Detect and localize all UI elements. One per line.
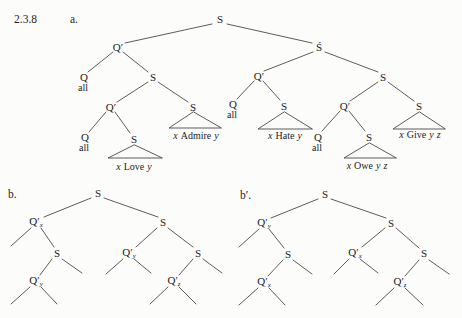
tree-b-s-right: S bbox=[160, 217, 166, 228]
leaf-var: y bbox=[147, 162, 151, 172]
tree-a-s-hate: S bbox=[281, 101, 287, 112]
tree-b-q-upper-left: Q′x bbox=[29, 216, 42, 229]
tree-b-q-lower-left: Q′y bbox=[29, 275, 42, 288]
tree-a-q-2: Q bbox=[81, 132, 89, 143]
tree-a-s-2: S bbox=[380, 72, 386, 83]
leaf-x-give-y-z: xGiveyz bbox=[399, 130, 440, 140]
leaf-var: x bbox=[268, 131, 272, 141]
leaf-x-hate-y: xHatey bbox=[268, 131, 302, 141]
tree-diagram-lines bbox=[0, 0, 462, 318]
tree-a-qprime-right: Q′ bbox=[254, 71, 264, 82]
leaf-var: y bbox=[214, 131, 218, 141]
tree-a-s-love: S bbox=[131, 134, 137, 145]
leaf-x-owe-y-z: xOweyz bbox=[347, 161, 388, 171]
tree-a-s-owe: S bbox=[366, 132, 372, 143]
tree-bp-q-lower-right: Q′z bbox=[393, 276, 406, 289]
tree-a-all-2: all bbox=[79, 143, 89, 153]
tree-a-qprime-inner: Q′ bbox=[106, 102, 116, 113]
tree-bp-s-right: S bbox=[388, 218, 394, 229]
item-label-b: b. bbox=[8, 188, 17, 200]
q-subscript: z bbox=[404, 281, 407, 289]
exercise-number: 2.3.8 bbox=[14, 13, 37, 25]
leaf-var: z bbox=[383, 161, 387, 171]
tree-a-edges bbox=[88, 24, 414, 133]
q-subscript: z bbox=[178, 280, 181, 288]
leaf-var: x bbox=[399, 130, 403, 140]
q-subscript: y bbox=[268, 222, 271, 230]
tree-b-root-s: S bbox=[95, 188, 101, 199]
tree-a-s-accented: Ś bbox=[316, 42, 322, 53]
tree-b-edges bbox=[11, 198, 222, 304]
leaf-predicate: Give bbox=[407, 130, 426, 140]
q-subscript: x bbox=[359, 252, 362, 260]
q-prime-symbol: Q′ bbox=[122, 246, 132, 258]
tree-a-s-give: S bbox=[416, 101, 422, 112]
tree-b-q-upper-right: Q′y bbox=[122, 247, 135, 260]
tree-a-q-4: Q bbox=[314, 132, 322, 143]
tree-a-all-3: all bbox=[227, 110, 237, 120]
tree-a-all-4: all bbox=[312, 143, 322, 153]
tree-a-qprime-inner-right: Q′ bbox=[340, 101, 350, 112]
item-label-b-prime: b′. bbox=[240, 189, 251, 201]
item-label-a: a. bbox=[70, 13, 78, 25]
leaf-var: x bbox=[116, 162, 120, 172]
leaf-var: y bbox=[297, 131, 301, 141]
leaf-predicate: Love bbox=[124, 162, 145, 172]
tree-b-prime-edges bbox=[239, 199, 449, 305]
tree-a-s-1: S bbox=[150, 72, 156, 83]
leaf-var: x bbox=[173, 131, 177, 141]
leaf-x-admire-y: xAdmirey bbox=[173, 131, 218, 141]
leaf-predicate: Owe bbox=[354, 161, 373, 171]
tree-a-q-1: Q bbox=[80, 72, 88, 83]
tree-bp-q-upper-right: Q′x bbox=[348, 247, 361, 260]
tree-a-root-s: S bbox=[217, 14, 223, 25]
leaf-predicate: Hate bbox=[276, 131, 295, 141]
tree-b-s-mid-right: S bbox=[195, 248, 201, 259]
tree-a-s-admire: S bbox=[190, 102, 196, 113]
tree-bp-s-mid-right: S bbox=[421, 248, 427, 259]
q-prime-symbol: Q′ bbox=[29, 215, 39, 227]
leaf-var: x bbox=[347, 161, 351, 171]
tree-b-q-lower-right: Q′z bbox=[167, 275, 180, 288]
q-prime-symbol: Q′ bbox=[29, 274, 39, 286]
tree-bp-q-lower-left: Q′x bbox=[257, 276, 270, 289]
tree-bp-q-upper-left: Q′y bbox=[257, 217, 270, 230]
leaf-x-love-y: xLovey bbox=[116, 162, 151, 172]
leaf-var: y bbox=[429, 130, 433, 140]
q-prime-symbol: Q′ bbox=[167, 274, 177, 286]
tree-bp-root-s: S bbox=[322, 189, 328, 200]
tree-a-q-3: Q bbox=[229, 99, 237, 110]
q-prime-symbol: Q′ bbox=[348, 246, 358, 258]
tree-bp-s-mid-left: S bbox=[285, 249, 291, 260]
q-prime-symbol: Q′ bbox=[393, 275, 403, 287]
q-prime-symbol: Q′ bbox=[257, 216, 267, 228]
tree-a-all-1: all bbox=[78, 83, 88, 93]
q-subscript: x bbox=[40, 221, 43, 229]
tree-a-qprime-left: Q′ bbox=[113, 42, 123, 53]
q-prime-symbol: Q′ bbox=[257, 275, 267, 287]
leaf-var: z bbox=[437, 130, 441, 140]
q-subscript: y bbox=[133, 252, 136, 260]
leaf-var: y bbox=[376, 161, 380, 171]
tree-b-s-mid-left: S bbox=[54, 248, 60, 259]
q-subscript: y bbox=[40, 280, 43, 288]
leaf-predicate: Admire bbox=[181, 131, 212, 141]
q-subscript: x bbox=[268, 281, 271, 289]
textbook-page: 2.3.8 a. S Q′ Ś Q all S Q′ S Q all S Q′ … bbox=[0, 0, 462, 318]
